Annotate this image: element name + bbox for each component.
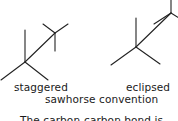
staggered-cc-bond: [25, 33, 55, 62]
staggered-front-bond-lower-right: [25, 62, 48, 80]
staggered-back-bond-upper-right: [55, 24, 68, 33]
eclipsed-back-bond-lower-left: [154, 13, 171, 24]
eclipsed-back-bond-right: [171, 13, 178, 18]
staggered-label: staggered: [14, 81, 68, 93]
eclipsed-front-bond-lower-left: [111, 47, 136, 65]
staggered-conformer: [1, 24, 68, 80]
eclipsed-label: eclipsed: [126, 81, 170, 93]
truncated-body-text: The carbon-carbon bond is...: [20, 114, 173, 121]
diagram-caption: sawhorse convention: [45, 93, 158, 105]
eclipsed-conformer: [111, 0, 178, 65]
eclipsed-front-bond-lower-right: [136, 47, 160, 64]
staggered-back-bond-upper-left: [43, 24, 55, 33]
eclipsed-cc-bond: [136, 13, 171, 47]
staggered-front-bond-lower-left: [1, 62, 25, 80]
